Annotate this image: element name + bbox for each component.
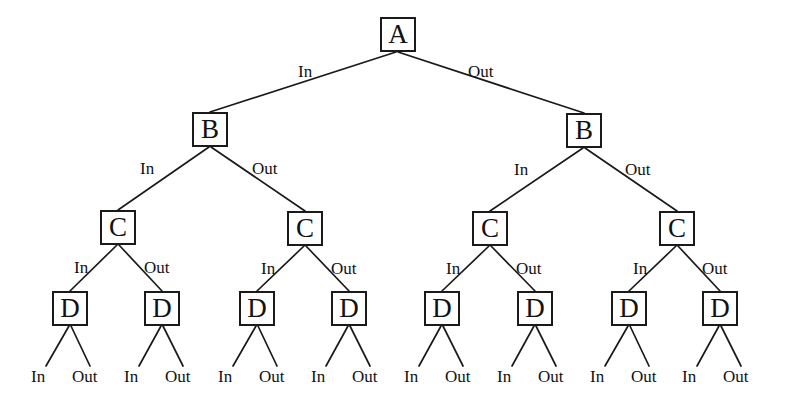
tree-edge-layer	[0, 0, 794, 416]
edge-label-el-a-out: Out	[468, 63, 494, 80]
decision-tree-diagram: ABBCCCCDDDDDDDD InOutInOutInOutInOutInOu…	[0, 0, 794, 416]
tree-node-d6[interactable]: D	[517, 291, 553, 326]
edge-label-el-c3-out: Out	[516, 260, 542, 277]
tree-edge	[697, 326, 719, 366]
edge-label-el-c2-in: In	[261, 260, 275, 277]
tree-edge	[326, 326, 348, 366]
leaf-label-leaf11: In	[497, 368, 511, 385]
tree-edge	[139, 326, 161, 366]
edge-label-el-c4-in: In	[633, 260, 647, 277]
tree-edge	[210, 52, 396, 112]
edge-label-el-c1-in: In	[74, 259, 88, 276]
leaf-label-leaf5: In	[218, 368, 232, 385]
tree-edge	[490, 148, 583, 211]
tree-edge	[512, 326, 534, 366]
tree-edge	[536, 326, 556, 366]
leaf-label-leaf14: Out	[631, 368, 657, 385]
tree-edge	[118, 147, 209, 210]
leaf-label-leaf9: In	[404, 368, 418, 385]
tree-node-c2[interactable]: C	[287, 211, 323, 246]
edge-label-el-b2-in: In	[514, 161, 528, 178]
tree-edge	[585, 148, 677, 211]
leaf-label-leaf3: In	[124, 368, 138, 385]
tree-edge	[46, 326, 69, 366]
tree-node-d1[interactable]: D	[52, 291, 88, 326]
leaf-label-leaf1: In	[31, 368, 45, 385]
tree-edge	[419, 326, 441, 366]
tree-node-b1[interactable]: B	[192, 112, 228, 147]
leaf-label-leaf12: Out	[538, 368, 564, 385]
tree-edge	[630, 326, 649, 366]
tree-edge	[443, 326, 463, 366]
tree-node-d8[interactable]: D	[702, 291, 738, 326]
tree-edge	[350, 326, 370, 366]
tree-node-d2[interactable]: D	[144, 291, 180, 326]
tree-node-c4[interactable]: C	[659, 211, 695, 246]
leaf-label-leaf6: Out	[259, 368, 285, 385]
edge-label-el-c3-in: In	[446, 260, 460, 277]
tree-edge	[163, 326, 183, 366]
tree-node-d5[interactable]: D	[424, 291, 460, 326]
leaf-label-leaf2: Out	[72, 368, 98, 385]
edge-label-el-b1-out: Out	[252, 160, 278, 177]
tree-node-d3[interactable]: D	[239, 291, 275, 326]
tree-node-d4[interactable]: D	[331, 291, 367, 326]
leaf-label-leaf15: In	[682, 368, 696, 385]
leaf-label-leaf4: Out	[165, 368, 191, 385]
tree-edge	[258, 326, 277, 366]
tree-edge	[71, 326, 90, 366]
tree-node-c3[interactable]: C	[472, 211, 508, 246]
tree-node-d7[interactable]: D	[611, 291, 647, 326]
edge-label-el-a-in: In	[298, 63, 312, 80]
leaf-label-leaf8: Out	[352, 368, 378, 385]
edge-label-el-c2-out: Out	[331, 260, 357, 277]
edge-label-el-b1-in: In	[140, 160, 154, 177]
tree-edge	[605, 326, 628, 366]
tree-edge	[233, 326, 256, 366]
tree-edge	[211, 147, 305, 211]
tree-node-c1[interactable]: C	[100, 210, 136, 245]
leaf-label-leaf7: In	[311, 368, 325, 385]
edge-label-el-c4-out: Out	[702, 260, 728, 277]
leaf-label-leaf10: Out	[445, 368, 471, 385]
edge-label-el-c1-out: Out	[144, 259, 170, 276]
leaf-label-leaf13: In	[590, 368, 604, 385]
tree-edge	[721, 326, 741, 366]
tree-node-b2[interactable]: B	[566, 113, 602, 148]
edge-label-el-b2-out: Out	[625, 161, 651, 178]
tree-node-a1[interactable]: A	[380, 17, 416, 52]
leaf-label-leaf16: Out	[723, 368, 749, 385]
